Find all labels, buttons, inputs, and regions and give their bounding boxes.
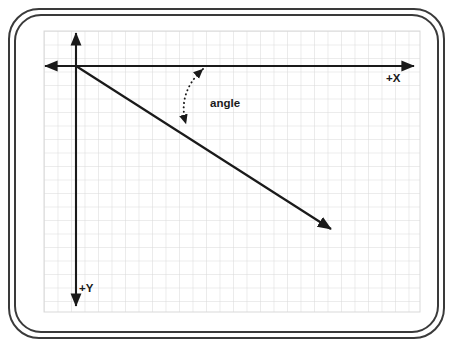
graph-grid xyxy=(44,31,420,312)
coordinate-diagram-svg: +X +Y angle xyxy=(0,0,453,347)
y-axis-label: +Y xyxy=(79,282,94,294)
angle-label: angle xyxy=(210,97,240,109)
diagram-canvas: +X +Y angle xyxy=(0,0,453,347)
x-axis-label: +X xyxy=(386,72,401,84)
